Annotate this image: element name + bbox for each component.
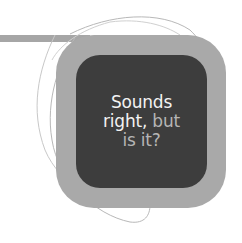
callout-line-2-bright: right,	[103, 111, 147, 131]
callout-line-2: right, but	[103, 112, 180, 131]
callout-line-3: is it?	[122, 131, 160, 150]
callout-box: Sounds right, but is it?	[76, 55, 207, 188]
callout-line-1: Sounds	[111, 93, 172, 112]
callout-line-2-dim: but	[147, 111, 180, 131]
